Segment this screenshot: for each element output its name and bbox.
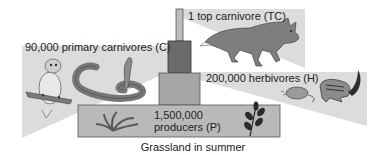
snake-icon [76,58,143,99]
chipmunk-icon [320,70,360,102]
label-primary-carnivores: 90,000 primary carnivores (C) [25,41,171,53]
fox-icon [200,18,299,66]
grass-icon [96,112,138,131]
label-herbivores: 200,000 herbivores (H) [206,72,319,84]
label-producers: producers (P) [154,121,221,133]
leafy-plant-icon [242,102,266,137]
owl-icon [26,59,72,118]
label-producers-count: 1,500,000 [154,109,203,121]
mouse-icon [281,87,314,102]
label-top-carnivore: 1 top carnivore (TC) [188,10,286,22]
caption: Grassland in summer [133,141,253,153]
